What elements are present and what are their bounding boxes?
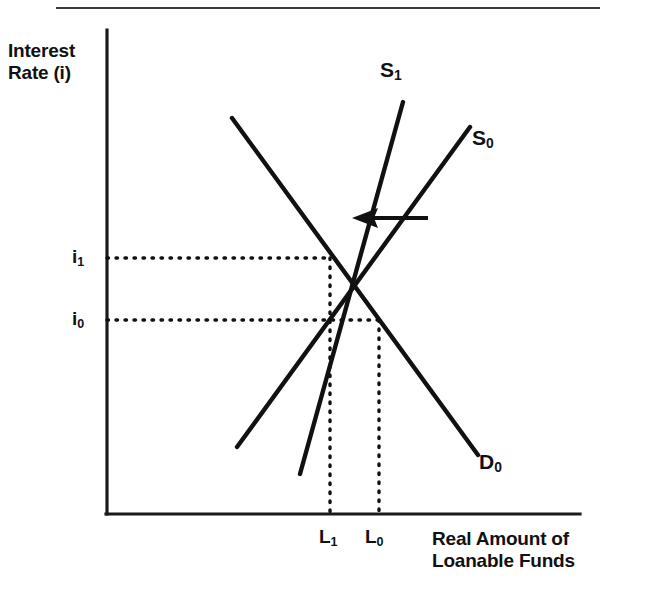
x-axis-tick-label-L1: L1 <box>319 526 338 548</box>
x-axis-title-line1: Real Amount of <box>432 528 569 549</box>
y-axis-title: InterestRate (i) <box>8 40 75 85</box>
y-axis-tick-label-i0: i0 <box>72 308 84 330</box>
x-axis-tick-label-L1-base: L <box>319 526 331 547</box>
curve-label-S1-base: S <box>380 58 394 81</box>
curve-label-S0-base: S <box>472 126 486 149</box>
curve-label-S1-subscript: 1 <box>394 67 402 83</box>
y-axis-tick-label-i1: i1 <box>72 246 84 268</box>
x-axis-tick-label-L1-subscript: 1 <box>331 535 338 549</box>
x-axis-tick-label-L0-base: L <box>365 526 377 547</box>
x-axis-tick-label-L0-subscript: 0 <box>377 535 384 549</box>
x-axis-title: Real Amount ofLoanable Funds <box>432 528 575 573</box>
curve-label-S0: S0 <box>472 126 494 151</box>
y-axis-tick-label-i0-subscript: 0 <box>77 317 84 331</box>
x-axis-title-line2: Loanable Funds <box>432 550 575 571</box>
y-axis-tick-label-i1-subscript: 1 <box>77 255 84 269</box>
curve-label-D0-subscript: 0 <box>494 459 502 475</box>
curve-label-S1: S1 <box>380 58 402 83</box>
loanable-funds-diagram: InterestRate (i) Real Amount ofLoanable … <box>0 0 651 597</box>
curve-label-D0-base: D <box>479 450 494 473</box>
y-axis-title-line1: Interest <box>8 40 75 61</box>
diagram-canvas <box>0 0 651 597</box>
x-axis-tick-label-L0: L0 <box>365 526 384 548</box>
curve-label-D0: D0 <box>479 450 502 475</box>
supply-curve-S1 <box>300 102 403 474</box>
y-axis-title-line2: Rate (i) <box>8 62 71 83</box>
supply-shift-arrow-icon <box>352 208 428 228</box>
curve-label-S0-subscript: 0 <box>486 135 494 151</box>
